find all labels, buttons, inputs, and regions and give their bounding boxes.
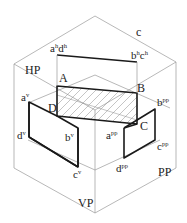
projection-diagram: HP VP PP c A B C D ahdh bhch av dv bv cv… (0, 0, 187, 223)
label-cpp: cpp (157, 140, 168, 152)
label-av: av (21, 91, 30, 103)
label-bv: bv (65, 131, 75, 143)
corner-label: c (136, 25, 141, 39)
svg-text:ahdh: ahdh (50, 42, 68, 54)
label-bh-ch: bhch (131, 49, 149, 61)
vertex-d-label: D (48, 101, 57, 115)
vertex-c-label: C (140, 119, 148, 133)
hp-projection-line (57, 55, 137, 62)
hp-label: HP (25, 63, 41, 77)
vertex-b-label: B (137, 81, 145, 95)
label-bpp: bpp (157, 96, 169, 108)
label-dpp: dpp (116, 162, 128, 174)
pp-projection (124, 109, 155, 158)
svg-text:bhch: bhch (131, 49, 149, 61)
cube-outline (14, 16, 176, 213)
vertex-a-label: A (59, 71, 68, 85)
label-ah-dh: ahdh (50, 42, 68, 54)
label-cv: cv (73, 168, 82, 180)
label-app: app (106, 129, 117, 141)
label-dv: dv (17, 129, 27, 141)
pp-label: PP (158, 165, 172, 179)
vp-label: VP (78, 196, 94, 210)
